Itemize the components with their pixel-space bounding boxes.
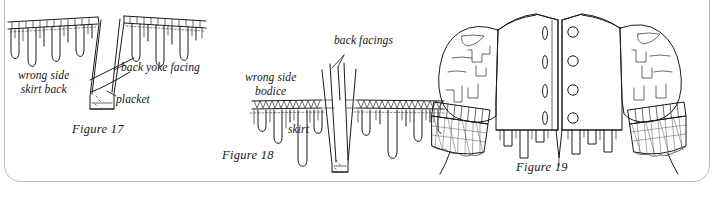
leader-back-facings-1 [332, 55, 344, 68]
label-line-1: wrong side [18, 69, 69, 81]
button-1 [568, 27, 578, 37]
button-2 [568, 56, 578, 66]
buttonhole-2 [543, 56, 548, 69]
label-skirt: skirt [288, 123, 309, 136]
illustration-plate: wrong side skirt back back yoke facing p… [0, 0, 718, 199]
buttonhole-1 [543, 27, 548, 40]
label-back-yoke-facing: back yoke facing [121, 61, 200, 74]
figure-18 [248, 42, 448, 177]
button-4 [568, 113, 578, 123]
seam-stitching-left [254, 101, 320, 108]
label-wrong-side-bodice: wrong side bodice [245, 70, 296, 98]
caption-figure-18: Figure 18 [222, 148, 274, 163]
left-tie [440, 152, 450, 174]
caption-figure-17: Figure 17 [72, 122, 124, 137]
seam-stitching-right [358, 101, 442, 108]
center-back-skirt-split [556, 130, 562, 158]
bodice-left-panel [496, 14, 558, 130]
label-line-1: wrong side [245, 71, 296, 83]
label-wrong-side-skirt-back: wrong side skirt back [18, 68, 69, 96]
stitch-line-left [12, 19, 89, 29]
label-back-facings: back facings [334, 34, 393, 47]
right-sleeve [620, 25, 681, 122]
label-placket: placket [116, 93, 150, 106]
buttonholes [543, 27, 548, 125]
figure-19-drawing [432, 6, 702, 176]
button-3 [568, 85, 578, 95]
buttonhole-4 [543, 112, 548, 125]
right-tie [668, 154, 678, 174]
label-line-2: skirt back [21, 83, 67, 95]
skirt-folds-right [362, 110, 441, 158]
label-line-2: bodice [255, 85, 286, 97]
buttonhole-3 [543, 85, 548, 98]
figure-18-drawing [248, 42, 448, 177]
figure-19 [432, 6, 702, 176]
caption-figure-19: Figure 19 [516, 160, 568, 175]
buttons [568, 27, 578, 123]
